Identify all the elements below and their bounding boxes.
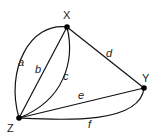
edge-label-f: f	[88, 118, 92, 130]
edge-label-d: d	[106, 47, 113, 59]
edge-label-e: e	[78, 89, 84, 101]
edge-label-c: c	[63, 70, 69, 82]
node-label-x: X	[63, 9, 71, 21]
node-y	[141, 85, 147, 91]
node-label-z: Z	[7, 122, 14, 134]
graph-diagram: X Y Z a b c d e f	[0, 0, 157, 140]
node-x	[64, 24, 70, 30]
node-z	[16, 115, 22, 121]
edge-label-b: b	[35, 63, 41, 75]
node-label-y: Y	[142, 72, 150, 84]
edge-label-a: a	[18, 56, 24, 68]
